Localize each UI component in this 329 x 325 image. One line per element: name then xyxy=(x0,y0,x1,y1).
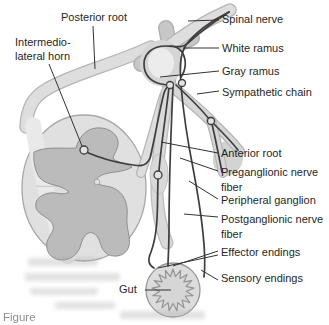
label-peripheral-ganglion: Peripheral ganglion xyxy=(221,194,316,207)
bleedthrough-smudge xyxy=(55,302,115,309)
ganglion-cell-2 xyxy=(179,80,186,87)
ganglion-cell-1 xyxy=(167,82,174,89)
label-preganglionic-nerve-fiber: Preganglionic nerve fiber xyxy=(221,165,327,195)
sympathetic-chain-fiber xyxy=(176,85,209,119)
label-effector-endings: Effector endings xyxy=(221,246,300,259)
label-white-ramus: White ramus xyxy=(222,42,284,55)
chain-ganglion-cell xyxy=(208,118,215,125)
figure-canvas: Posterior root Intermedio- lateral horn … xyxy=(0,0,329,325)
bleedthrough-smudge xyxy=(120,311,205,319)
label-gray-ramus: Gray ramus xyxy=(222,65,279,78)
bleedthrough-smudge xyxy=(28,258,98,266)
label-sensory-endings: Sensory endings xyxy=(221,272,303,285)
label-postganglionic-nerve-fiber: Postganglionic nerve fiber xyxy=(221,212,329,242)
leader-preganglionic xyxy=(180,158,218,171)
peripheral-ganglion-cell xyxy=(154,171,162,179)
label-gut: Gut xyxy=(119,283,137,296)
leader-sympathetic-chain xyxy=(197,91,219,94)
figure-caption-partial: Figure xyxy=(3,311,36,323)
ramus-loop-window xyxy=(144,44,178,82)
leader-peripheral-ganglion xyxy=(189,181,218,199)
label-anterior-root: Anterior root xyxy=(221,147,282,160)
bleedthrough-smudge xyxy=(30,288,98,295)
intermediolateral-cell xyxy=(80,146,88,154)
bleedthrough-smudge xyxy=(25,273,120,281)
label-spinal-nerve: Spinal nerve xyxy=(222,13,283,26)
label-sympathetic-chain: Sympathetic chain xyxy=(222,86,312,99)
central-canal xyxy=(94,179,100,185)
label-posterior-root: Posterior root xyxy=(61,11,127,24)
label-intermediolateral-line1: Intermedio- xyxy=(15,36,71,49)
label-intermediolateral-line2: lateral horn xyxy=(15,50,70,63)
leader-effector-2 xyxy=(158,255,218,268)
